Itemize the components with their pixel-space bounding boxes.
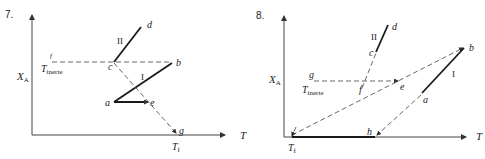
final-temp-label: Tf [172,141,181,154]
point-c-label: c [369,47,374,58]
inert-temp-label: Tinerte [41,63,63,76]
diagram-7: 7. XA T f Tinerte II d c I b a e g Tf [5,9,247,154]
diagram-8: 8. XA T g Tinerte e II d c f b I a h Tf [256,10,483,155]
point-a-label: a [105,97,110,108]
cooling-line-c-g [114,63,176,133]
arrow-to-Tf [292,127,296,136]
segment-I-label: I [452,69,455,79]
y-axis-label: XA [16,70,29,84]
point-b-label: b [469,42,474,53]
point-d-label: d [392,21,398,32]
point-h-label: h [367,126,372,137]
point-e-label: e [400,81,405,92]
diagram-canvas: 7. XA T f Tinerte II d c I b a e g Tf 8. [0,0,485,159]
dashed-a-h [377,95,421,135]
point-f-label: f [359,84,363,95]
final-temp-label: Tf [288,142,297,155]
segment-II-label: II [117,36,123,46]
point-b-label: b [176,57,181,68]
x-axis-label: T [240,129,247,141]
segment-II-label: II [371,32,377,42]
diagram-number: 7. [5,9,13,20]
diagram-number: 8. [256,10,264,21]
dashed-f-c [362,53,376,88]
point-g-label: g [179,125,184,136]
point-d-label: d [147,19,153,30]
segment-II [376,25,388,52]
point-f-label: f [50,52,53,60]
point-g-label: g [309,69,314,80]
segment-I [422,48,464,93]
inert-temp-label: Tinerte [302,84,324,97]
point-a-label: a [423,94,428,105]
y-axis-label: XA [268,73,281,87]
segment-I-label: I [141,72,144,82]
point-c-label: c [108,61,113,72]
x-axis-label: T [476,130,483,142]
